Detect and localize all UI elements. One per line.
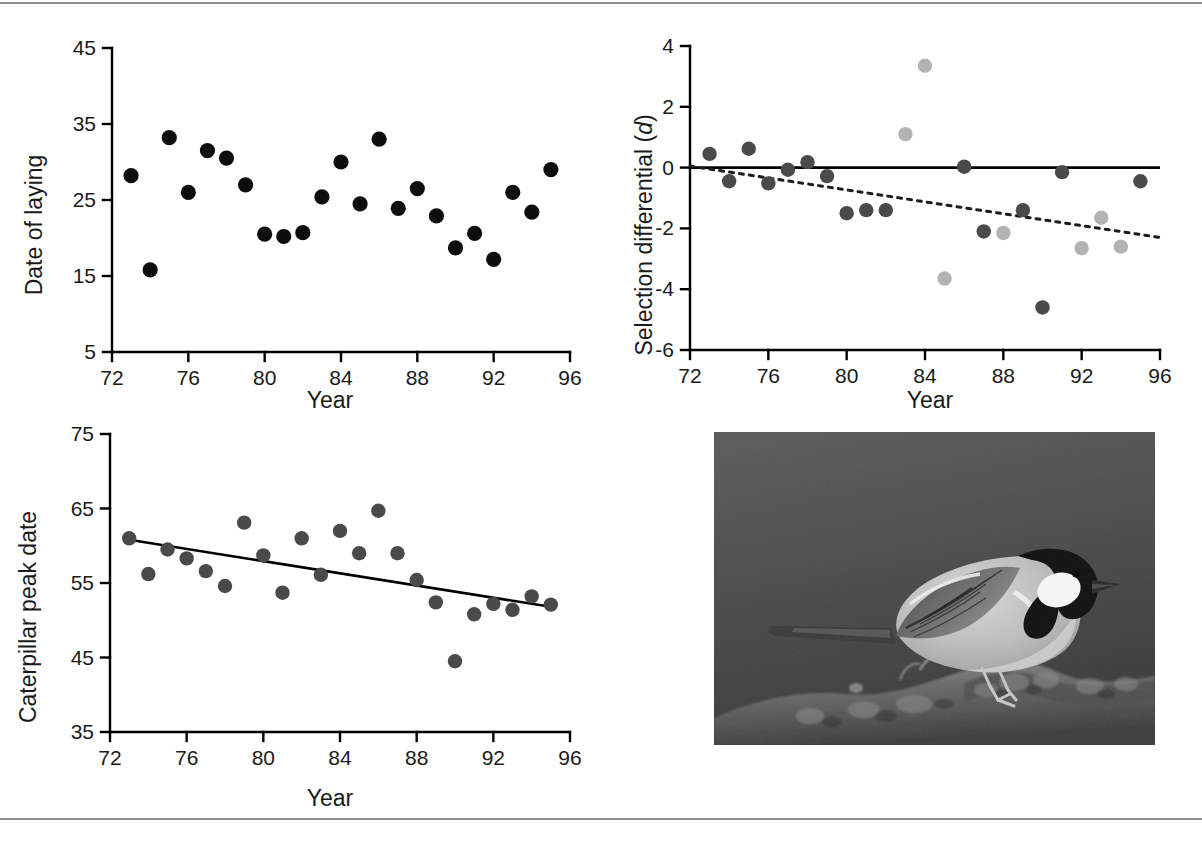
y-tick-label: 5	[84, 340, 96, 363]
data-point	[544, 597, 558, 611]
data-point	[333, 524, 347, 538]
x-tick-label: 92	[482, 746, 505, 769]
x-axis-tick-labels: 72768084889296	[100, 366, 581, 389]
x-tick-label: 84	[329, 366, 353, 389]
solid-trend-line	[129, 540, 551, 607]
data-point	[162, 130, 177, 145]
data-point	[957, 159, 971, 173]
data-point	[1094, 211, 1108, 225]
data-point	[218, 579, 232, 593]
date-of-laying-panel: 515253545 72768084889296 Date of laying …	[0, 20, 600, 420]
x-tick-label: 88	[406, 366, 429, 389]
data-point	[219, 151, 234, 166]
x-axis-title: Year	[307, 785, 354, 811]
y-axis-tick-labels: 515253545	[73, 36, 96, 363]
data-point	[761, 176, 775, 190]
data-point	[143, 262, 158, 277]
data-point	[1133, 174, 1147, 188]
data-point	[294, 531, 308, 545]
data-point	[977, 224, 991, 238]
x-tick-label: 76	[177, 366, 200, 389]
figure-top-rule	[0, 2, 1202, 4]
data-point	[200, 143, 215, 158]
data-point	[179, 551, 193, 565]
data-point	[141, 567, 155, 581]
axis-lines	[103, 48, 570, 361]
data-point	[918, 59, 932, 73]
data-point	[996, 226, 1010, 240]
x-axis-tick-labels: 72768084889296	[98, 746, 581, 769]
data-point	[372, 132, 387, 147]
data-point	[314, 189, 329, 204]
y-tick-label: 65	[71, 497, 94, 520]
y-tick-label: -6	[655, 338, 674, 361]
data-point	[429, 208, 444, 223]
data-point	[505, 185, 520, 200]
x-tick-label: 72	[100, 366, 123, 389]
x-axis-title: Year	[907, 387, 954, 413]
data-point	[879, 203, 893, 217]
x-tick-label: 72	[98, 746, 121, 769]
data-point	[314, 568, 328, 582]
figure-bottom-rule	[0, 818, 1202, 820]
axis-lines	[101, 434, 570, 741]
caterpillar-peak-date-panel: 3545556575 72768084889296 Caterpillar pe…	[0, 412, 600, 818]
x-tick-label: 84	[328, 746, 352, 769]
data-point	[722, 174, 736, 188]
data-point	[1074, 241, 1088, 255]
data-point	[352, 196, 367, 211]
data-point	[160, 542, 174, 556]
data-point	[702, 147, 716, 161]
data-point	[391, 201, 406, 216]
data-point	[295, 225, 310, 240]
bird-eye	[1072, 570, 1079, 577]
data-point	[486, 597, 500, 611]
x-tick-label: 88	[405, 746, 428, 769]
data-point	[486, 252, 501, 267]
x-tick-label: 84	[913, 364, 937, 387]
y-tick-label: 45	[73, 36, 96, 59]
data-point	[371, 504, 385, 518]
data-point	[937, 271, 951, 285]
x-tick-label: 96	[1148, 364, 1171, 387]
data-point	[524, 205, 539, 220]
data-point	[1016, 203, 1030, 217]
data-point	[467, 607, 481, 621]
data-points	[122, 504, 558, 669]
data-point	[276, 229, 291, 244]
data-point	[352, 546, 366, 560]
selection-differential-chart: -6-4-2024 72768084889296 Selection diffe…	[600, 20, 1202, 420]
data-point	[1114, 239, 1128, 253]
date-of-laying-chart: 515253545 72768084889296 Date of laying …	[0, 20, 600, 420]
y-tick-label: 4	[662, 34, 674, 57]
data-point	[409, 573, 423, 587]
x-tick-label: 88	[992, 364, 1015, 387]
y-axis-title: Selection differential (d)	[631, 114, 657, 355]
great-tit-photo-image	[714, 432, 1155, 745]
caterpillar-peak-date-chart: 3545556575 72768084889296 Caterpillar pe…	[0, 412, 600, 818]
data-point	[256, 548, 270, 562]
selection-differential-panel: -6-4-2024 72768084889296 Selection diffe…	[600, 20, 1202, 420]
data-point	[467, 226, 482, 241]
x-tick-label: 96	[558, 366, 581, 389]
y-tick-label: 55	[71, 571, 94, 594]
data-point	[898, 127, 912, 141]
x-tick-label: 76	[757, 364, 780, 387]
y-tick-label: 35	[71, 720, 94, 743]
x-tick-label: 80	[835, 364, 858, 387]
data-point	[781, 163, 795, 177]
x-tick-label: 96	[558, 746, 581, 769]
x-tick-label: 80	[253, 366, 276, 389]
y-tick-label: 75	[71, 422, 94, 445]
data-points	[702, 59, 1147, 315]
x-axis-title: Year	[307, 387, 354, 413]
data-point	[1035, 300, 1049, 314]
data-point	[448, 654, 462, 668]
x-tick-label: 80	[252, 746, 275, 769]
y-axis-title: Date of laying	[21, 155, 47, 296]
data-point	[800, 155, 814, 169]
x-tick-label: 92	[482, 366, 505, 389]
y-tick-label: -4	[655, 277, 674, 300]
data-point	[122, 531, 136, 545]
x-tick-label: 92	[1070, 364, 1093, 387]
